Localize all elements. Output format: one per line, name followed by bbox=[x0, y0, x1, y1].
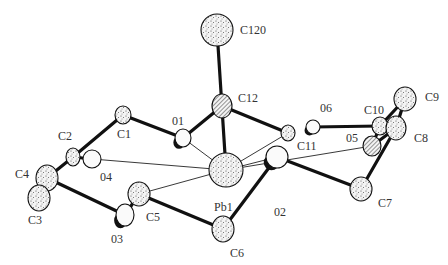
atom-c7 bbox=[350, 177, 372, 201]
bond-c1-c2 bbox=[73, 115, 123, 157]
bond-o6-c10 bbox=[313, 126, 380, 127]
atom-c2 bbox=[66, 148, 80, 166]
atom-label-c3: C3 bbox=[28, 213, 42, 227]
atom-label-c9: C9 bbox=[425, 90, 439, 104]
atom-c3 bbox=[28, 185, 50, 211]
atom-label-o6: 06 bbox=[320, 101, 332, 115]
atom-label-c2: C2 bbox=[58, 129, 72, 143]
bond-o2-c7 bbox=[277, 157, 361, 189]
atom-label-o2: 02 bbox=[274, 205, 286, 219]
atom-label-c1: C1 bbox=[117, 127, 131, 141]
atom-label-c8: C8 bbox=[414, 131, 428, 145]
molecular-structure-diagram: C120C1201C1C204C4C3C503Pb1C602C7C1106C10… bbox=[0, 0, 448, 265]
atom-o4 bbox=[83, 150, 101, 168]
atom-c12 bbox=[212, 94, 232, 118]
atom-pb1 bbox=[209, 153, 243, 187]
atom-label-o1: 01 bbox=[172, 114, 184, 128]
atom-label-o3: 03 bbox=[111, 232, 123, 246]
atom-label-c5: C5 bbox=[146, 210, 160, 224]
atom-c5 bbox=[128, 182, 150, 206]
atom-o6 bbox=[305, 120, 320, 135]
bond-pb1-o4 bbox=[92, 159, 226, 170]
atom-c9 bbox=[394, 87, 416, 111]
atom-o1 bbox=[173, 129, 191, 149]
atom-label-c10: C10 bbox=[364, 103, 384, 117]
atom-o3 bbox=[114, 204, 134, 228]
atom-label-c7: C7 bbox=[378, 196, 392, 210]
atom-c8 bbox=[386, 116, 406, 140]
atom-label-c4: C4 bbox=[15, 167, 29, 181]
atom-c1 bbox=[115, 106, 131, 124]
atom-o5 bbox=[363, 136, 381, 156]
atom-label-c120: C120 bbox=[240, 23, 266, 37]
atom-label-o4: 04 bbox=[100, 170, 112, 184]
bond-c4-o3 bbox=[47, 178, 125, 215]
atom-c6 bbox=[212, 216, 234, 242]
atom-c120 bbox=[201, 14, 233, 46]
atom-label-c12: C12 bbox=[238, 91, 258, 105]
atom-label-c11: C11 bbox=[297, 139, 317, 153]
atom-o2 bbox=[264, 146, 288, 170]
atom-label-c6: C6 bbox=[230, 246, 244, 260]
atom-c11 bbox=[281, 125, 295, 141]
atom-label-o5: 05 bbox=[346, 131, 358, 145]
atom-label-pb1: Pb1 bbox=[214, 200, 233, 214]
